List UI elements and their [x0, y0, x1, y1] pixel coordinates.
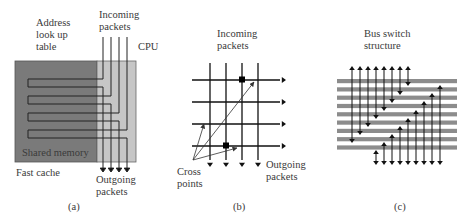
crosspoint-marker — [239, 77, 245, 83]
up-arrowhead — [437, 85, 443, 89]
up-arrowhead — [373, 66, 379, 70]
down-arrowhead — [365, 123, 371, 127]
up-arrowhead — [381, 142, 387, 146]
down-arrowhead — [381, 107, 387, 111]
up-arrowhead — [357, 66, 363, 70]
input-arrowhead — [282, 77, 286, 83]
down-arrowhead — [381, 161, 387, 165]
cpu-label: CPU — [138, 41, 159, 52]
crossbar-grid — [192, 63, 286, 167]
caption-a: (a) — [68, 201, 80, 213]
output-arrowhead — [239, 163, 245, 167]
cross-points-label-2: points — [177, 178, 203, 189]
bus-line — [337, 137, 457, 141]
address-table-label-2: look up — [36, 29, 68, 40]
outgoing-label-1: Outgoing — [96, 174, 136, 185]
shared-memory-label: Shared memory — [22, 147, 90, 158]
output-arrowhead — [255, 163, 261, 167]
down-arrowhead — [421, 161, 427, 165]
down-arrowhead — [373, 161, 379, 165]
down-arrowhead — [397, 91, 403, 95]
input-arrowhead — [282, 143, 286, 149]
caption-b: (b) — [233, 201, 246, 213]
address-table-label-1: Address — [36, 17, 70, 28]
output-arrowhead — [223, 163, 229, 167]
down-arrowhead — [405, 82, 411, 86]
down-arrowhead — [397, 161, 403, 165]
input-arrowhead — [282, 99, 286, 105]
bus-lines — [337, 79, 457, 150]
outgoing-label-1: Outgoing — [266, 159, 306, 170]
up-arrowhead — [397, 126, 403, 130]
incoming-label-2: packets — [99, 21, 131, 32]
bus-line — [337, 79, 457, 83]
bus-line — [337, 112, 457, 116]
bus-line — [337, 145, 457, 149]
up-arrowhead — [373, 150, 379, 154]
bus-switch-label-1: Bus switch — [364, 28, 411, 39]
outgoing-arrowhead — [124, 168, 130, 172]
incoming-label-1: Incoming — [217, 28, 258, 39]
address-table-label-3: table — [36, 41, 57, 52]
fast-cache-label: Fast cache — [16, 167, 60, 178]
figure-canvas: Address look up table Incoming packets C… — [0, 0, 474, 224]
up-arrowhead — [389, 66, 395, 70]
down-arrowhead — [429, 161, 435, 165]
bus-switch-label-2: structure — [364, 40, 401, 51]
up-arrowhead — [421, 101, 427, 105]
up-arrowhead — [381, 66, 387, 70]
incoming-label-1: Incoming — [99, 9, 140, 20]
up-arrowhead — [389, 134, 395, 138]
up-arrowhead — [349, 66, 355, 70]
down-arrowhead — [389, 99, 395, 103]
down-arrowhead — [357, 131, 363, 135]
down-arrowhead — [437, 161, 443, 165]
panel-c: Bus switch structure (c) — [337, 28, 457, 213]
crosspoint-pointer — [193, 148, 237, 160]
crosspoint-marker — [223, 143, 229, 149]
incoming-label-2: packets — [217, 40, 249, 51]
up-arrowhead — [429, 93, 435, 97]
panel-b: Incoming packets Cross points Outgoing p… — [177, 28, 306, 213]
crosspoint-pointer — [193, 124, 204, 160]
down-arrowhead — [413, 161, 419, 165]
bus-line — [337, 104, 457, 108]
up-arrowhead — [365, 66, 371, 70]
up-arrowhead — [397, 66, 403, 70]
up-arrowhead — [405, 66, 411, 70]
output-arrowhead — [207, 163, 213, 167]
outgoing-arrowhead — [116, 168, 122, 172]
bus-line — [337, 129, 457, 133]
caption-c: (c) — [394, 201, 406, 213]
outgoing-arrowhead — [108, 168, 114, 172]
outgoing-label-2: packets — [266, 171, 298, 182]
up-arrowhead — [405, 118, 411, 122]
panel-a: Address look up table Incoming packets C… — [15, 9, 159, 213]
down-arrowhead — [389, 161, 395, 165]
outgoing-arrowhead — [100, 168, 106, 172]
input-arrowhead — [282, 121, 286, 127]
down-arrowhead — [405, 161, 411, 165]
bus-line — [337, 96, 457, 100]
cross-points-label-1: Cross — [177, 166, 201, 177]
down-arrowhead — [373, 115, 379, 119]
bus-line — [337, 121, 457, 125]
up-arrowhead — [413, 110, 419, 114]
outgoing-label-2: packets — [96, 186, 128, 197]
